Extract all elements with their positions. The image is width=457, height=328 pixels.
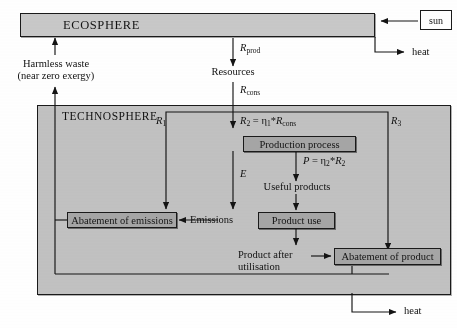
abatement-of-product-box[interactable]: Abatement of product: [334, 248, 441, 265]
connector-lines: [0, 0, 457, 328]
harmless-waste-line2: (near zero exergy): [0, 70, 112, 82]
heat-bottom-label: heat: [404, 305, 422, 317]
harmless-waste-label: Harmless waste (near zero exergy): [0, 58, 112, 82]
r3-label: R3: [391, 115, 401, 128]
harmless-waste-line1: Harmless waste: [0, 58, 112, 70]
p-formula: P = η2*R2: [303, 155, 345, 168]
p-rhs-subscript: 2: [342, 159, 346, 168]
emissions-label: Emissions: [190, 214, 233, 226]
r-cons-subscript: cons: [246, 88, 260, 97]
technosphere-label: TECHNOSPHERE: [62, 110, 157, 123]
product-after-utilisation-label: Product after utilisation: [238, 249, 293, 273]
product-use-label: Product use: [272, 215, 321, 226]
useful-products-label: Useful products: [252, 181, 342, 193]
resources-label: Resources: [198, 66, 268, 78]
e-flow-label: E: [240, 168, 246, 180]
diagram-canvas: ECOSPHERE sun: [0, 0, 457, 328]
production-process-box[interactable]: Production process: [243, 136, 356, 152]
r1-label: R1: [156, 115, 166, 128]
r-cons-label: Rcons: [240, 84, 260, 97]
abatement-of-emissions-box[interactable]: Abatement of emissions: [67, 212, 177, 228]
production-process-label: Production process: [259, 139, 339, 150]
product-after-line1: Product after: [238, 249, 293, 261]
r-prod-label: Rprod: [240, 42, 260, 55]
abatement-of-product-label: Abatement of product: [341, 251, 433, 262]
r2-equals: =: [250, 115, 261, 126]
heat-top-label: heat: [412, 46, 430, 58]
product-use-box[interactable]: Product use: [258, 212, 335, 229]
abatement-of-emissions-label: Abatement of emissions: [71, 215, 172, 226]
product-after-line2: utilisation: [238, 261, 293, 273]
r2-formula: R2 = η1*Rcons: [240, 115, 296, 128]
r2-rhs-subscript: cons: [282, 119, 296, 128]
r-prod-subscript: prod: [246, 46, 260, 55]
r3-subscript: 3: [397, 119, 401, 128]
p-equals: =: [309, 155, 320, 166]
r1-subscript: 1: [162, 119, 166, 128]
